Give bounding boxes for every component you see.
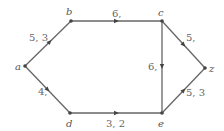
node-label-z: z [208, 63, 215, 74]
edge-label-c-e: 6, [148, 61, 158, 72]
edge-label-d-e: 3, 2 [106, 118, 125, 129]
node-z [203, 66, 207, 70]
node-label-b: b [66, 6, 72, 17]
edge-label-a-d: 4, [38, 86, 48, 97]
node-c [160, 19, 164, 23]
node-b [69, 19, 73, 23]
node-label-c: c [158, 7, 164, 18]
node-a [23, 64, 27, 68]
node-label-d: d [66, 118, 72, 129]
node-label-a: a [15, 61, 21, 72]
arrow-d-e-icon [114, 111, 119, 115]
arrow-b-c-icon [114, 19, 119, 23]
node-d [68, 111, 72, 115]
edge-label-c-z: 5, [186, 32, 196, 43]
node-e [160, 111, 164, 115]
edge-label-b-c: 6, [112, 8, 122, 19]
flow-network-diagram: a b c d e z 5, 3 6, 5, 6, 4, 3, 2 5, 3 [0, 0, 224, 131]
node-label-e: e [158, 118, 164, 129]
edge-label-a-b: 5, 3 [29, 32, 48, 43]
arrow-c-e-icon [160, 64, 164, 69]
edge-label-e-z: 5, 3 [186, 87, 205, 98]
